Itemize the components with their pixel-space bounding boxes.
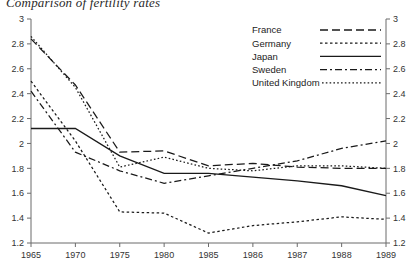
y-axis-left-tick-label: 1.4 [11, 213, 24, 223]
y-axis-right-tick-label: 2.8 [393, 39, 406, 49]
legend-label-japan: Japan [252, 51, 278, 62]
y-axis-right-tick-label: 1.8 [393, 164, 406, 174]
x-axis-tick-label: 1975 [110, 250, 130, 260]
x-axis-ticks: 196519701975198019851986198719881989 [21, 243, 396, 260]
y-axis-left-tick-label: 1.8 [11, 164, 24, 174]
y-axis-right-ticks: 1.21.41.61.822.22.42.62.83 [386, 14, 406, 248]
x-axis-tick-label: 1989 [376, 250, 396, 260]
legend-label-france: France [252, 24, 282, 35]
y-axis-right-tick-label: 2 [393, 139, 398, 149]
legend-label-germany: Germany [252, 38, 291, 49]
x-axis-tick-label: 1987 [287, 250, 307, 260]
y-axis-left-tick-label: 2 [19, 139, 24, 149]
legend-label-united-kingdom: United Kingdom [252, 77, 320, 88]
series-line-sweden [31, 91, 386, 183]
x-axis-tick-label: 1965 [21, 250, 41, 260]
chart-plot-area: 1.21.41.61.822.22.42.62.83 1.21.41.61.82… [0, 0, 417, 265]
chart-series [31, 36, 386, 233]
y-axis-right-tick-label: 1.2 [393, 238, 406, 248]
y-axis-left-ticks: 1.21.41.61.822.22.42.62.83 [11, 14, 31, 248]
y-axis-right-tick-label: 2.4 [393, 89, 406, 99]
y-axis-right-tick-label: 3 [393, 14, 398, 24]
y-axis-left-tick-label: 1.2 [11, 238, 24, 248]
y-axis-left-tick-label: 2.6 [11, 64, 24, 74]
x-axis-tick-label: 1986 [243, 250, 263, 260]
y-axis-right-tick-label: 1.4 [393, 213, 406, 223]
series-line-france [31, 39, 386, 168]
y-axis-left-tick-label: 2.2 [11, 114, 24, 124]
chart-axes [31, 19, 386, 243]
y-axis-left-tick-label: 3 [19, 14, 24, 24]
y-axis-right-tick-label: 1.6 [393, 188, 406, 198]
series-line-germany [31, 81, 386, 233]
y-axis-left-tick-label: 2.8 [11, 39, 24, 49]
x-axis-tick-label: 1980 [154, 250, 174, 260]
fertility-rates-chart: Comparison of fertility rates 1.21.41.61… [0, 0, 417, 265]
series-line-japan [31, 129, 386, 196]
y-axis-left-tick-label: 1.6 [11, 188, 24, 198]
y-axis-right-tick-label: 2.6 [393, 64, 406, 74]
x-axis-tick-label: 1988 [332, 250, 352, 260]
x-axis-tick-label: 1985 [198, 250, 218, 260]
x-axis-tick-label: 1970 [65, 250, 85, 260]
y-axis-left-tick-label: 2.4 [11, 89, 24, 99]
chart-legend: FranceGermanyJapanSwedenUnited Kingdom [252, 24, 381, 88]
y-axis-right-tick-label: 2.2 [393, 114, 406, 124]
legend-label-sweden: Sweden [252, 64, 286, 75]
